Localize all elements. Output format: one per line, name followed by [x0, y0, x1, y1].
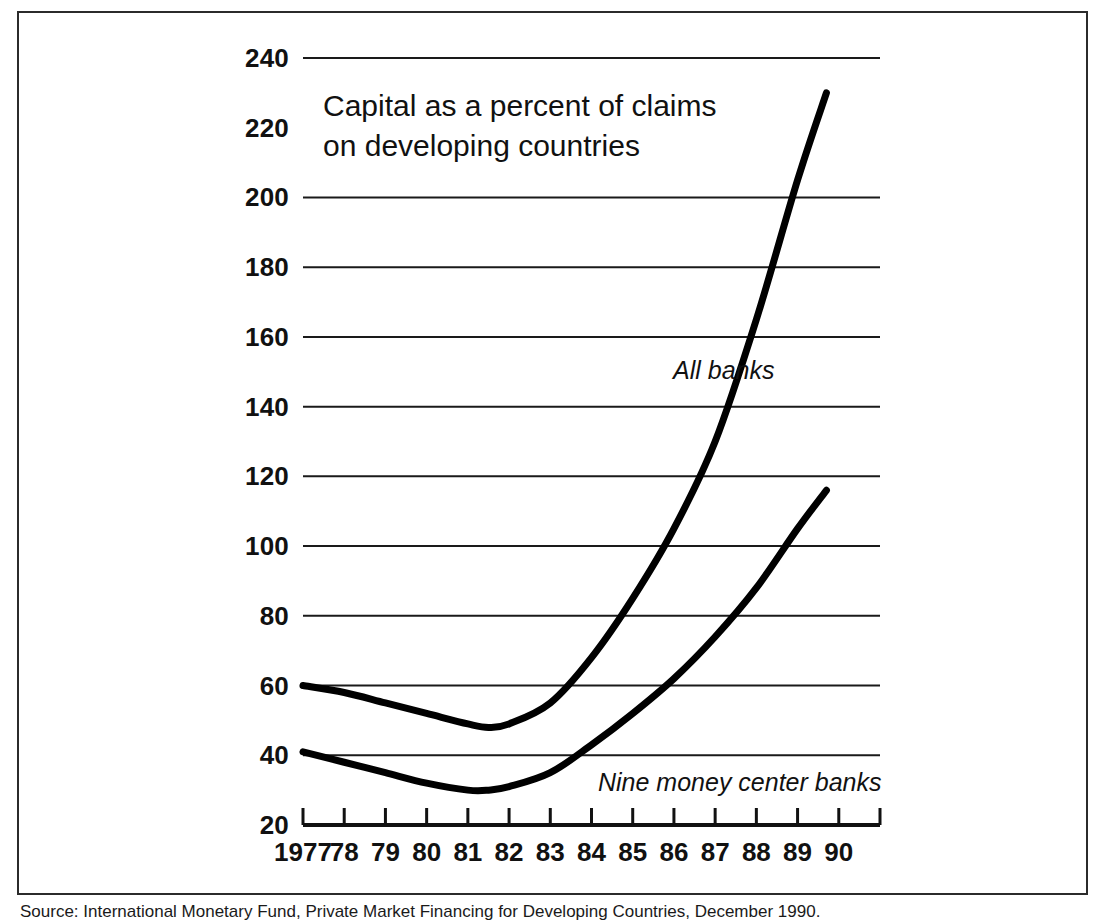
- y-tick-label: 220: [225, 115, 289, 141]
- y-tick-label: 140: [225, 394, 289, 420]
- x-axis-group: [303, 808, 880, 825]
- x-tick-label: 90: [794, 839, 884, 865]
- series-label-nine-money-center-banks: Nine money center banks: [598, 768, 881, 797]
- y-tick-label: 180: [225, 254, 289, 280]
- y-tick-label: 120: [225, 463, 289, 489]
- series-line-all-banks: [303, 93, 826, 728]
- series-line-nine-money-center-banks: [303, 490, 826, 790]
- y-tick-label: 40: [225, 742, 289, 768]
- y-tick-label: 200: [225, 184, 289, 210]
- y-tick-label: 100: [225, 533, 289, 559]
- y-tick-label: 160: [225, 324, 289, 350]
- y-tick-label: 20: [225, 812, 289, 838]
- series-label-all-banks: All banks: [673, 356, 774, 385]
- y-tick-label: 60: [225, 673, 289, 699]
- y-tick-label: 240: [225, 45, 289, 71]
- y-tick-label: 80: [225, 603, 289, 629]
- source-note: Source: International Monetary Fund, Pri…: [20, 901, 1090, 922]
- chart-title: Capital as a percent of claims on develo…: [323, 86, 717, 165]
